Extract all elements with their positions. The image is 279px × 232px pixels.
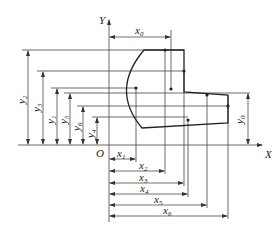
dimension-lines — [28, 37, 248, 216]
x-axis-label: X — [264, 148, 273, 160]
measure-points — [134, 48, 229, 121]
x0-label: x0 — [134, 24, 144, 38]
y2-label: y2 — [15, 95, 29, 105]
x1-label: x1 — [116, 147, 125, 161]
y3-label: y3 — [30, 103, 44, 113]
x4-label: x4 — [139, 182, 149, 196]
part-outline — [126, 50, 228, 128]
y4-label: y4 — [84, 129, 98, 139]
y1-label: y1 — [44, 116, 58, 125]
x5-label: x5 — [153, 193, 163, 207]
x6-label: x6 — [162, 204, 172, 218]
y-axis-label: Y — [99, 14, 107, 26]
origin-label: O — [96, 147, 104, 159]
y5-label: y5 — [57, 115, 71, 125]
coordinate-diagram: Y X O x0 y0 x1 x2 x3 x4 x5 x6 y2 y3 y1 y… — [0, 0, 279, 232]
y0-label: y0 — [233, 115, 247, 125]
y6-label: y6 — [70, 122, 84, 132]
